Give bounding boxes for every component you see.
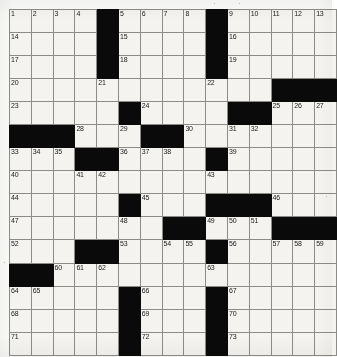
letter-cell[interactable] (293, 33, 315, 56)
letter-cell[interactable] (249, 263, 271, 286)
letter-cell[interactable]: 14 (10, 33, 32, 56)
letter-cell[interactable] (184, 33, 206, 56)
letter-cell[interactable] (31, 217, 53, 240)
letter-cell[interactable]: 39 (227, 148, 249, 171)
letter-cell[interactable] (118, 171, 140, 194)
letter-cell[interactable]: 67 (227, 286, 249, 309)
letter-cell[interactable]: 12 (293, 10, 315, 33)
letter-cell[interactable]: 43 (206, 171, 228, 194)
letter-cell[interactable]: 27 (315, 102, 337, 125)
letter-cell[interactable] (75, 309, 97, 332)
letter-cell[interactable]: 45 (140, 194, 162, 217)
letter-cell[interactable]: 62 (97, 263, 119, 286)
letter-cell[interactable]: 22 (206, 79, 228, 102)
letter-cell[interactable] (315, 194, 337, 217)
letter-cell[interactable] (31, 194, 53, 217)
letter-cell[interactable]: 68 (10, 309, 32, 332)
letter-cell[interactable]: 36 (118, 148, 140, 171)
letter-cell[interactable]: 70 (227, 309, 249, 332)
letter-cell[interactable] (53, 79, 75, 102)
letter-cell[interactable] (184, 194, 206, 217)
letter-cell[interactable] (315, 332, 337, 355)
crossword-puzzle[interactable]: 1234567891011121314151617181920212223242… (9, 9, 321, 340)
letter-cell[interactable] (184, 171, 206, 194)
letter-cell[interactable] (75, 194, 97, 217)
letter-cell[interactable] (31, 56, 53, 79)
letter-cell[interactable]: 8 (184, 10, 206, 33)
letter-cell[interactable]: 30 (184, 125, 206, 148)
letter-cell[interactable]: 49 (206, 217, 228, 240)
letter-cell[interactable] (249, 148, 271, 171)
letter-cell[interactable]: 7 (162, 10, 184, 33)
letter-cell[interactable]: 64 (10, 286, 32, 309)
letter-cell[interactable] (31, 79, 53, 102)
letter-cell[interactable] (293, 286, 315, 309)
letter-cell[interactable] (31, 332, 53, 355)
letter-cell[interactable]: 34 (31, 148, 53, 171)
letter-cell[interactable] (140, 217, 162, 240)
letter-cell[interactable]: 47 (10, 217, 32, 240)
letter-cell[interactable] (140, 240, 162, 263)
letter-cell[interactable]: 44 (10, 194, 32, 217)
letter-cell[interactable]: 6 (140, 10, 162, 33)
letter-cell[interactable] (31, 33, 53, 56)
letter-cell[interactable]: 19 (227, 56, 249, 79)
letter-cell[interactable] (31, 240, 53, 263)
letter-cell[interactable] (53, 217, 75, 240)
letter-cell[interactable] (271, 56, 293, 79)
letter-cell[interactable] (140, 33, 162, 56)
letter-cell[interactable] (75, 332, 97, 355)
letter-cell[interactable] (53, 286, 75, 309)
letter-cell[interactable] (271, 125, 293, 148)
letter-cell[interactable] (271, 148, 293, 171)
letter-cell[interactable] (315, 171, 337, 194)
letter-cell[interactable]: 57 (271, 240, 293, 263)
letter-cell[interactable] (53, 240, 75, 263)
letter-cell[interactable] (315, 125, 337, 148)
letter-cell[interactable]: 15 (118, 33, 140, 56)
letter-cell[interactable] (162, 194, 184, 217)
letter-cell[interactable] (249, 240, 271, 263)
letter-cell[interactable] (162, 286, 184, 309)
letter-cell[interactable] (315, 33, 337, 56)
letter-cell[interactable] (97, 309, 119, 332)
letter-cell[interactable] (162, 33, 184, 56)
letter-cell[interactable] (184, 79, 206, 102)
letter-cell[interactable]: 66 (140, 286, 162, 309)
letter-cell[interactable]: 60 (53, 263, 75, 286)
letter-cell[interactable]: 63 (206, 263, 228, 286)
letter-cell[interactable] (271, 171, 293, 194)
letter-cell[interactable] (118, 79, 140, 102)
letter-cell[interactable]: 28 (75, 125, 97, 148)
letter-cell[interactable]: 17 (10, 56, 32, 79)
letter-cell[interactable]: 65 (31, 286, 53, 309)
letter-cell[interactable] (293, 171, 315, 194)
letter-cell[interactable]: 72 (140, 332, 162, 355)
letter-cell[interactable]: 1 (10, 10, 32, 33)
letter-cell[interactable] (315, 263, 337, 286)
letter-cell[interactable]: 54 (162, 240, 184, 263)
letter-cell[interactable]: 38 (162, 148, 184, 171)
letter-cell[interactable] (75, 217, 97, 240)
letter-cell[interactable] (97, 286, 119, 309)
letter-cell[interactable] (162, 309, 184, 332)
letter-cell[interactable] (75, 102, 97, 125)
letter-cell[interactable] (315, 286, 337, 309)
letter-cell[interactable] (140, 79, 162, 102)
letter-cell[interactable] (53, 102, 75, 125)
letter-cell[interactable]: 24 (140, 102, 162, 125)
letter-cell[interactable]: 23 (10, 102, 32, 125)
letter-cell[interactable] (184, 56, 206, 79)
letter-cell[interactable] (97, 332, 119, 355)
letter-cell[interactable] (162, 102, 184, 125)
letter-cell[interactable] (162, 56, 184, 79)
letter-cell[interactable]: 41 (75, 171, 97, 194)
letter-cell[interactable] (75, 79, 97, 102)
letter-cell[interactable] (293, 125, 315, 148)
letter-cell[interactable]: 35 (53, 148, 75, 171)
letter-cell[interactable] (140, 263, 162, 286)
letter-cell[interactable] (249, 56, 271, 79)
letter-cell[interactable]: 33 (10, 148, 32, 171)
letter-cell[interactable] (97, 125, 119, 148)
letter-cell[interactable] (271, 309, 293, 332)
